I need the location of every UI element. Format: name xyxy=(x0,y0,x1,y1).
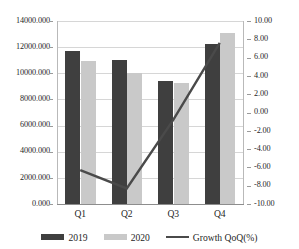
left-axis-tick-6000.000: 6000.000 xyxy=(20,121,50,129)
left-axis-tickmark xyxy=(49,178,53,179)
right-axis-tickmark xyxy=(247,113,251,114)
bar-2019-Q1 xyxy=(65,51,80,204)
combo-chart: 0.0002000.0004000.0006000.0008000.000100… xyxy=(0,0,299,249)
legend-label-2019: 2019 xyxy=(68,232,87,243)
right-axis-tickmark xyxy=(247,149,251,150)
left-axis-tickmark xyxy=(49,21,53,22)
legend-label-growth: Growth QoQ(%) xyxy=(193,232,258,243)
bar-2020-Q2 xyxy=(127,73,142,204)
left-axis-tick-4000.000: 4000.000 xyxy=(20,147,50,155)
right-axis-tick--4.00: -4.00 xyxy=(254,145,271,153)
right-value-axis: -10.00-8.00-6.00-4.00-2.000.002.004.006.… xyxy=(247,0,299,249)
gridline xyxy=(57,21,243,22)
right-axis-tick-4.00: 4.00 xyxy=(254,72,268,80)
right-axis-tick-8.00: 8.00 xyxy=(254,35,268,43)
bar-2019-Q4 xyxy=(205,44,220,204)
right-axis-tickmark xyxy=(247,167,251,168)
legend-swatch-2019 xyxy=(41,234,64,240)
right-axis-tickmark xyxy=(247,39,251,40)
right-axis-tick--2.00: -2.00 xyxy=(254,127,271,135)
right-axis-tickmark xyxy=(247,58,251,59)
left-axis-tick-14000.000: 14000.000 xyxy=(16,17,50,25)
right-axis-tick-2.00: 2.00 xyxy=(254,90,268,98)
right-axis-tick-0.00: 0.00 xyxy=(254,108,268,116)
right-axis-tickmark xyxy=(247,204,251,205)
left-value-axis: 0.0002000.0004000.0006000.0008000.000100… xyxy=(0,0,53,249)
right-axis-tickmark xyxy=(247,76,251,77)
category-label-Q1: Q1 xyxy=(60,208,100,219)
right-axis-tick-10.00: 10.00 xyxy=(254,17,272,25)
legend-swatch-growth xyxy=(166,236,189,239)
right-axis-line xyxy=(243,21,244,205)
bar-2019-Q2 xyxy=(112,60,127,204)
category-label-Q3: Q3 xyxy=(153,208,193,219)
legend-swatch-2020 xyxy=(104,234,127,240)
legend-label-2020: 2020 xyxy=(131,232,150,243)
category-label-Q4: Q4 xyxy=(200,208,240,219)
left-axis-tickmark xyxy=(49,152,53,153)
legend-item-2019[interactable]: 2019 xyxy=(41,232,87,243)
right-axis-tickmark xyxy=(247,131,251,132)
left-axis-line xyxy=(57,21,58,205)
right-axis-tick-6.00: 6.00 xyxy=(254,53,268,61)
category-axis-line xyxy=(57,204,244,205)
right-axis-tick--8.00: -8.00 xyxy=(254,181,271,189)
bar-2020-Q3 xyxy=(174,83,189,204)
left-axis-tick-2000.000: 2000.000 xyxy=(20,174,50,182)
left-axis-tickmark xyxy=(49,47,53,48)
legend-item-2020[interactable]: 2020 xyxy=(104,232,150,243)
right-axis-tickmark xyxy=(247,21,251,22)
bar-2020-Q4 xyxy=(220,33,235,204)
category-label-Q2: Q2 xyxy=(107,208,147,219)
left-axis-tickmark xyxy=(49,73,53,74)
right-axis-tickmark xyxy=(247,186,251,187)
chart-legend: 2019 2020 Growth QoQ(%) xyxy=(0,228,299,246)
right-axis-tick--10.00: -10.00 xyxy=(254,200,275,208)
right-axis-tickmark xyxy=(247,94,251,95)
left-axis-tick-0.000: 0.000 xyxy=(32,200,50,208)
right-axis-tick--6.00: -6.00 xyxy=(254,163,271,171)
legend-item-growth[interactable]: Growth QoQ(%) xyxy=(166,232,258,243)
left-axis-tick-8000.000: 8000.000 xyxy=(20,95,50,103)
bar-2020-Q1 xyxy=(81,61,96,204)
left-axis-tick-10000.000: 10000.000 xyxy=(16,69,50,77)
bar-2019-Q3 xyxy=(158,81,173,204)
left-axis-tickmark xyxy=(49,99,53,100)
plot-area xyxy=(57,21,243,204)
left-axis-tickmark xyxy=(49,126,53,127)
left-axis-tickmark xyxy=(49,204,53,205)
left-axis-tick-12000.000: 12000.000 xyxy=(16,43,50,51)
